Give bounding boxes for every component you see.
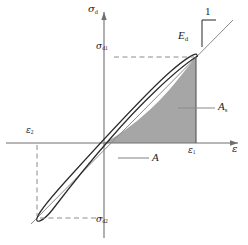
area-loop-label: A: [152, 152, 159, 163]
sigma-d2-tick-label: σd2: [96, 215, 108, 225]
y-axis-label: σd: [88, 4, 98, 15]
area-shaded-label: As: [218, 101, 227, 114]
secant-modulus-line: [31, 20, 233, 224]
modulus-label: Ed: [178, 30, 188, 43]
x-axis-label: ε: [232, 144, 237, 154]
figure-canvas: σd σd1 σd2 ε ε1 ε2 Ed 1 A As: [0, 0, 248, 245]
sigma-d1-tick-label: σd1: [96, 42, 108, 52]
slope-unit-label: 1: [205, 6, 211, 17]
epsilon-1-tick-label: ε1: [188, 146, 196, 156]
y-axis-arrowhead: [101, 12, 106, 20]
epsilon-2-tick-label: ε2: [26, 126, 34, 136]
hysteresis-loop-diagram: [0, 0, 248, 245]
